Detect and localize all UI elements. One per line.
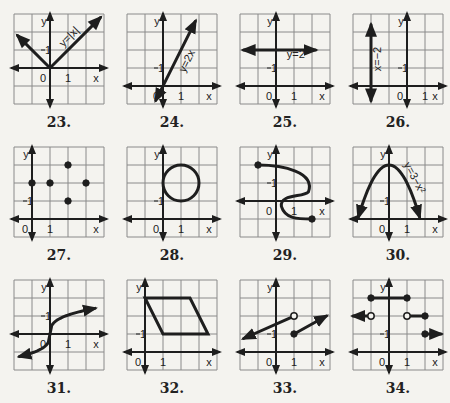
- x-axis-label: x: [206, 356, 212, 368]
- graph-30: yx011y=3−x²: [353, 147, 443, 237]
- x-axis-label: x: [432, 356, 438, 368]
- origin-label: 0: [153, 223, 159, 235]
- y-axis-label: y: [154, 148, 160, 160]
- y-tick-1-label: 1: [158, 195, 164, 207]
- y-tick-1-label: 1: [384, 328, 390, 340]
- y-tick-1-label: 1: [271, 62, 277, 74]
- y-tick-1-label: 1: [271, 328, 277, 340]
- y-tick-1-label: 1: [27, 195, 33, 207]
- closed-point: [65, 162, 71, 168]
- exercise-number: 28.: [127, 247, 217, 263]
- closed-point: [291, 331, 297, 337]
- closed-point: [309, 216, 315, 222]
- closed-point: [83, 180, 89, 186]
- x-tick-1-label: 1: [291, 205, 297, 217]
- x-axis-label: x: [319, 90, 325, 102]
- x-axis-label: x: [206, 90, 212, 102]
- closed-point: [255, 162, 261, 168]
- closed-point: [47, 180, 53, 186]
- grid-lines: [14, 280, 104, 370]
- open-point: [368, 313, 374, 319]
- origin-label: 0: [397, 90, 403, 102]
- graph-27: yx011: [14, 147, 104, 237]
- graph-32: yx011: [127, 280, 217, 370]
- grid-lines: [240, 147, 330, 237]
- y-axis-label: y: [23, 148, 29, 160]
- origin-label: 0: [379, 223, 385, 235]
- origin-label: 0: [266, 356, 272, 368]
- exercise-number: 27.: [14, 247, 104, 263]
- y-tick-1-label: 1: [45, 310, 51, 322]
- y-axis-label: y: [398, 15, 404, 27]
- y-axis-label: y: [380, 148, 386, 160]
- grid-lines: [240, 280, 330, 370]
- y-tick-1-label: 1: [158, 62, 164, 74]
- grid-lines: [353, 280, 443, 370]
- origin-label: 0: [135, 356, 141, 368]
- y-axis-label: y: [267, 15, 273, 27]
- grid-lines: [127, 147, 217, 237]
- x-axis-label: x: [432, 90, 438, 102]
- graph-26: yx011x=−2: [353, 14, 443, 104]
- x-axis-label: x: [319, 205, 325, 217]
- graph-28: yx011: [127, 147, 217, 237]
- equation-label: y=|x|: [56, 24, 81, 49]
- graph-29: yx011: [240, 147, 330, 237]
- x-tick-1-label: 1: [404, 223, 410, 235]
- y-axis-label: y: [136, 281, 142, 293]
- closed-point: [368, 295, 374, 301]
- closed-point: [422, 331, 428, 337]
- x-axis-label: x: [93, 72, 99, 84]
- x-tick-1-label: 1: [178, 90, 184, 102]
- y-axis-label: y: [267, 148, 273, 160]
- exercise-number: 25.: [240, 114, 330, 130]
- closed-point: [404, 295, 410, 301]
- y-axis-label: y: [41, 15, 47, 27]
- exercise-number: 29.: [240, 247, 330, 263]
- graph-24: yx011y=2x: [127, 14, 217, 104]
- exercise-number: 32.: [127, 380, 217, 396]
- exercise-number: 34.: [353, 380, 443, 396]
- graph-31: yx011: [14, 280, 104, 370]
- y-tick-1-label: 1: [140, 328, 146, 340]
- grid-lines: [240, 14, 330, 104]
- exercise-number: 30.: [353, 247, 443, 263]
- graph-23: yx011y=|x|: [14, 14, 104, 104]
- origin-label: 0: [379, 356, 385, 368]
- exercise-number: 31.: [14, 380, 104, 396]
- origin-label: 0: [22, 223, 28, 235]
- y-tick-1-label: 1: [384, 195, 390, 207]
- origin-label: 0: [266, 90, 272, 102]
- x-tick-1-label: 1: [291, 90, 297, 102]
- x-axis-label: x: [93, 338, 99, 350]
- origin-label: 0: [266, 205, 272, 217]
- x-axis-label: x: [93, 223, 99, 235]
- exercise-number: 33.: [240, 380, 330, 396]
- y-axis-label: y: [380, 281, 386, 293]
- x-tick-1-label: 1: [404, 356, 410, 368]
- x-tick-1-label: 1: [160, 356, 166, 368]
- x-tick-1-label: 1: [65, 72, 71, 84]
- equation-label: y=2: [287, 48, 305, 60]
- x-tick-1-label: 1: [65, 338, 71, 350]
- exercise-number: 24.: [127, 114, 217, 130]
- graph-33: yx011: [240, 280, 330, 370]
- origin-label: 0: [40, 72, 46, 84]
- grid-lines: [127, 14, 217, 104]
- plotted-relation: [244, 316, 327, 339]
- y-tick-1-label: 1: [402, 62, 408, 74]
- closed-point: [422, 313, 428, 319]
- open-point: [404, 313, 410, 319]
- closed-point: [29, 180, 35, 186]
- equation-label: x=−2: [371, 47, 383, 71]
- x-axis-label: x: [432, 223, 438, 235]
- closed-point: [65, 198, 71, 204]
- exercise-number: 23.: [14, 114, 104, 130]
- x-tick-1-label: 1: [178, 223, 184, 235]
- y-axis-label: y: [154, 15, 160, 27]
- x-tick-1-label: 1: [47, 223, 53, 235]
- y-tick-1-label: 1: [271, 177, 277, 189]
- graph-34: yx011: [353, 280, 443, 370]
- y-axis-label: y: [41, 281, 47, 293]
- x-tick-1-label: 1: [422, 90, 428, 102]
